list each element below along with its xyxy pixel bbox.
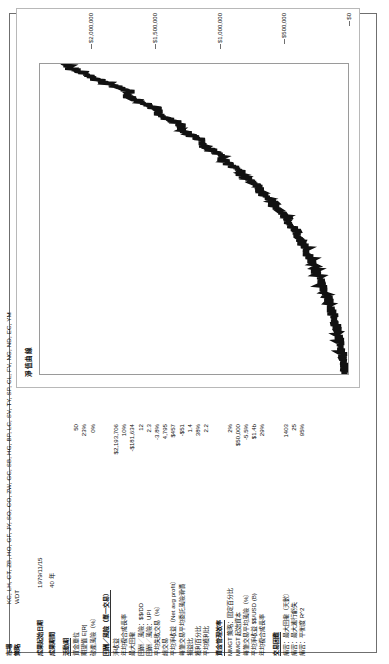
tick-mark bbox=[155, 44, 156, 49]
stat-row: 年均複合成長率29% bbox=[258, 424, 266, 656]
stat-label: 平均淨收益（Net avg profit） bbox=[169, 572, 177, 656]
stat-value: 10% bbox=[120, 424, 128, 470]
stat-value: 1.4 bbox=[186, 424, 194, 470]
stat-row: 痛苦：最大回撤（天數）1403 bbox=[282, 424, 290, 656]
stat-label: 總交易 bbox=[161, 632, 169, 656]
stat-label: 痛苦：最大回撤（天數） bbox=[282, 584, 290, 656]
stat-row: 淨收益$2,193,706 bbox=[112, 424, 120, 656]
stat-label: 年均複合成長率 bbox=[120, 608, 128, 656]
y-axis-tick: $500,000 bbox=[281, 13, 287, 38]
stat-label: 平均獲利比 bbox=[202, 620, 210, 656]
stat-label: 淨收益 bbox=[112, 632, 120, 656]
stat-row: 總交易4,795 bbox=[161, 424, 169, 656]
stats-section-activity: 活動期 資金單位50期望值 E[R]23%破產風險（%）0% bbox=[62, 424, 97, 656]
stat-row: 平均失敗交易（%）-3.8% bbox=[153, 424, 161, 656]
stat-row: 回酬／風險：$$/DD12 bbox=[137, 424, 145, 656]
period-row: 成果期間 40 年 bbox=[46, 356, 58, 656]
stat-value: 95% bbox=[298, 424, 306, 470]
chart-plot-area bbox=[39, 63, 349, 375]
stat-value: 23% bbox=[80, 424, 88, 470]
stats-section-difficulty: 交易困難 痛苦：最大回撤（天數）1403痛苦：最大連行虧失25痛苦：平衡度 R^… bbox=[272, 424, 307, 656]
tick-mark bbox=[349, 21, 350, 26]
stat-value: 29% bbox=[258, 424, 266, 470]
equity-curve-chart: 淨值曲線 $0$500,000$1,000,000$1,500,000$2,00… bbox=[16, 8, 360, 388]
stat-row: 平均淨收益（Net avg profit）$457 bbox=[169, 424, 177, 656]
stats-rows: 淨收益$2,193,706年均複合成長率10%最大回撤-$181,634回酬／風… bbox=[112, 424, 210, 656]
stat-value: 25 bbox=[290, 424, 298, 470]
tick-mark bbox=[91, 44, 92, 49]
chart-y-axis: $0$500,000$1,000,000$1,500,000$2,000,000 bbox=[39, 13, 349, 63]
stat-value: 1403 bbox=[282, 424, 290, 470]
stat-label: 期望值 E[R] bbox=[80, 618, 88, 656]
stat-label: MMGT 起始資本 bbox=[234, 606, 242, 656]
y-axis-tick: $2,000,000 bbox=[88, 13, 94, 43]
strategy-label: 策略 bbox=[13, 604, 21, 656]
stat-value: 2.2 bbox=[202, 424, 210, 470]
tick-mark bbox=[220, 44, 221, 49]
start-date-value: 1979/11/15 bbox=[34, 516, 46, 588]
stat-row: 年均複合成長率10% bbox=[120, 424, 128, 656]
stat-value: 50 bbox=[72, 424, 80, 470]
stats-section-money-mgmt: 資金管理效率 MMGT 策略：固定百分比2%MMGT 起始資本$50,000每筆… bbox=[215, 424, 266, 656]
stat-label: 年均複合成長率 bbox=[258, 608, 266, 656]
stats-rows: 痛苦：最大回撤（天數）1403痛苦：最大連行虧失25痛苦：平衡度 R^295% bbox=[282, 424, 307, 656]
stats-rows: 資金單位50期望值 E[R]23%破產風險（%）0% bbox=[72, 424, 97, 656]
stat-label: 回酬／風險：UPI bbox=[145, 604, 153, 656]
report-page: 市場 KC, LH, CT, ZB, HO, GF, JY, SO, CO, Z… bbox=[0, 0, 389, 664]
stat-value: 2% bbox=[226, 424, 234, 470]
stat-value: 12 bbox=[137, 424, 145, 470]
y-axis-tick: $0 bbox=[346, 13, 352, 20]
section-title: 交易困難 bbox=[272, 632, 281, 656]
stat-row: 損益比1.4 bbox=[186, 424, 194, 656]
period-value: 40 年 bbox=[46, 516, 58, 588]
stat-value: $457 bbox=[169, 424, 177, 470]
stat-value: -$51 bbox=[178, 424, 186, 470]
stat-label: 每筆交易平均委託風險滑價 bbox=[178, 578, 186, 656]
start-date-row: 成果起始日期 1979/11/15 bbox=[34, 356, 46, 656]
stat-row: MMGT 策略：固定百分比2% bbox=[226, 424, 234, 656]
stat-row: 痛苦：最大連行虧失25 bbox=[290, 424, 298, 656]
equity-curve-line bbox=[40, 64, 348, 374]
stat-row: 平均淨收益 $$/USD (B)$1.4b bbox=[250, 424, 258, 656]
stat-label: 痛苦：最大連行虧失 bbox=[290, 596, 298, 656]
stat-value: 38% bbox=[194, 424, 202, 470]
section-title: 活動期 bbox=[62, 638, 71, 656]
report-meta: 成果起始日期 1979/11/15 成果期間 40 年 bbox=[34, 356, 58, 656]
section-title: 回酬／風險（單一交易） bbox=[102, 590, 111, 656]
stat-label: 破產風險（%） bbox=[89, 609, 97, 656]
stat-row: 痛苦：平衡度 R^295% bbox=[298, 424, 306, 656]
y-axis-tick: $1,500,000 bbox=[152, 13, 158, 43]
stat-label: 每筆交易平均風險（%） bbox=[242, 585, 250, 656]
stat-row: 回酬／風險：UPI2.3 bbox=[145, 424, 153, 656]
stat-value: $2,193,706 bbox=[112, 424, 120, 470]
stat-row: 資金單位50 bbox=[72, 424, 80, 656]
stat-label: 資金單位 bbox=[72, 626, 80, 656]
stat-label: 平均失敗交易（%） bbox=[153, 597, 161, 656]
stat-value: 4,795 bbox=[161, 424, 169, 470]
stat-label: 痛苦：平衡度 R^2 bbox=[298, 602, 306, 656]
stat-value: $50,000 bbox=[234, 424, 242, 470]
period-label: 成果期間 bbox=[46, 588, 58, 656]
stats-section-return-risk: 回酬／風險（單一交易） 淨收益$2,193,706年均複合成長率10%最大回撤-… bbox=[102, 424, 211, 656]
stat-label: 獲利百分比 bbox=[194, 620, 202, 656]
stat-value: $1.4b bbox=[250, 424, 258, 470]
stat-value: 2.3 bbox=[145, 424, 153, 470]
y-axis-tick: $1,000,000 bbox=[217, 13, 223, 43]
statistics-table: 活動期 資金單位50期望值 E[R]23%破產風險（%）0% 回酬／風險（單一交… bbox=[62, 424, 306, 656]
stats-rows: MMGT 策略：固定百分比2%MMGT 起始資本$50,000每筆交易平均風險（… bbox=[226, 424, 267, 656]
section-title: 資金管理效率 bbox=[215, 620, 224, 656]
stat-row: 每筆交易平均風險（%）-5.5% bbox=[242, 424, 250, 656]
stat-value: 0% bbox=[89, 424, 97, 470]
stat-row: 獲利百分比38% bbox=[194, 424, 202, 656]
stat-row: MMGT 起始資本$50,000 bbox=[234, 424, 242, 656]
stat-label: MMGT 策略：固定百分比 bbox=[226, 582, 234, 656]
stat-label: 最大回撤 bbox=[128, 626, 136, 656]
stat-label: 平均淨收益 $$/USD (B) bbox=[250, 587, 258, 656]
chart-title: 淨值曲線 bbox=[23, 347, 33, 377]
market-row: 市場 KC, LH, CT, ZB, HO, GF, JY, SO, CO, Z… bbox=[5, 28, 13, 656]
tick-mark bbox=[284, 39, 285, 44]
stat-label: 回酬／風險：$$/DD bbox=[137, 597, 145, 656]
stat-value: -$181,634 bbox=[128, 424, 136, 470]
stat-row: 平均獲利比2.2 bbox=[202, 424, 210, 656]
market-symbols: KC, LH, CT, ZB, HO, GF, JY, SO, CO, ZW, … bbox=[5, 28, 13, 604]
